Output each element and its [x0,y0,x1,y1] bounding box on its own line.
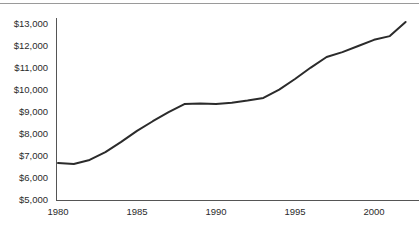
data-series-line [58,22,406,164]
line-chart-canvas [0,0,419,230]
plot-area: $13,000$12,000$11,000$10,000$9,000$8,000… [0,0,419,230]
y-tick-label: $11,000 [14,63,48,73]
y-tick-label: $5,000 [19,195,48,205]
chart-figure: $13,000$12,000$11,000$10,000$9,000$8,000… [0,0,419,230]
y-tick-label: $10,000 [14,85,48,95]
y-tick-label: $6,000 [19,173,48,183]
y-tick-label: $9,000 [19,107,48,117]
x-tick-label: 1995 [284,207,305,217]
y-tick-label: $12,000 [14,41,48,51]
x-tick-label: 1990 [205,207,226,217]
y-tick-label: $8,000 [19,129,48,139]
y-tick-label: $7,000 [19,151,48,161]
x-tick-label: 2000 [363,207,384,217]
x-tick-label: 1980 [47,207,68,217]
x-tick-label: 1985 [126,207,147,217]
y-tick-label: $13,000 [14,19,48,29]
